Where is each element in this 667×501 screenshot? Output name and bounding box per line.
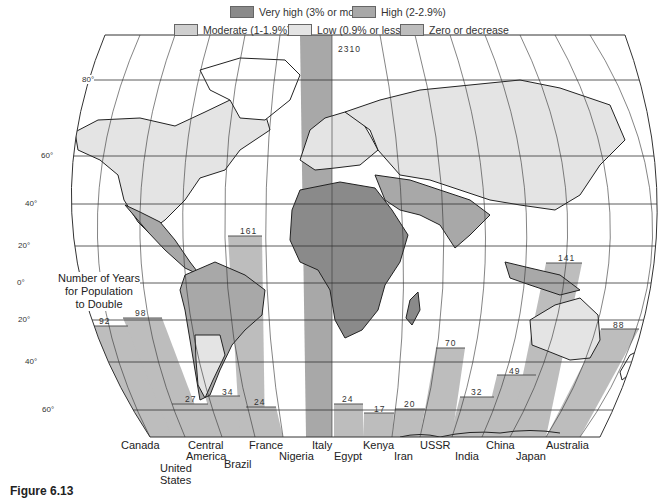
- bar-value-australia: 88: [613, 320, 624, 330]
- bar-value-egypt: 24: [342, 394, 353, 404]
- legend-swatch: [352, 6, 376, 18]
- bar-value-ussr: 70: [445, 338, 456, 348]
- label-us-line2: States: [160, 474, 191, 486]
- legend-moderate: Moderate (1-1.9%): [174, 24, 291, 36]
- label-canada: Canada: [121, 439, 160, 451]
- annotation-line: Number of Years: [58, 272, 140, 285]
- legend-swatch: [174, 24, 198, 36]
- lat-label: 40°: [25, 199, 37, 208]
- legend-zero: Zero or decrease: [400, 24, 509, 36]
- label-nigeria: Nigeria: [279, 450, 314, 462]
- label-us-line1: United: [160, 462, 192, 474]
- lat-label: 20°: [18, 315, 30, 324]
- world-map: [0, 0, 667, 501]
- label-australia: Australia: [546, 439, 589, 451]
- bar-value-italy: 2310: [338, 44, 361, 54]
- lat-label: 80°: [82, 75, 94, 84]
- legend-label: Low (0.9% or less): [317, 24, 404, 36]
- label-iran: Iran: [394, 450, 413, 462]
- legend-label: Moderate (1-1.9%): [203, 24, 291, 36]
- lat-label: 60°: [42, 405, 54, 414]
- bar-value-france: 161: [240, 226, 257, 236]
- label-egypt: Egypt: [334, 450, 362, 462]
- bar-value-kenya: 17: [374, 404, 385, 414]
- bar-value-china: 49: [509, 366, 520, 376]
- figure-caption: Figure 6.13: [10, 484, 73, 498]
- label-china: China: [486, 439, 515, 451]
- label-india: India: [455, 450, 479, 462]
- bar-value-central-america: 27: [185, 394, 196, 404]
- legend: Very high (3% or more) High (2-2.9%) Mod…: [0, 0, 667, 40]
- legend-low: Low (0.9% or less): [288, 24, 404, 36]
- bar-value-canada: 92: [99, 316, 110, 326]
- lat-label: 0°: [17, 278, 25, 287]
- label-italy: Italy: [312, 439, 332, 451]
- lat-label: 40°: [25, 357, 37, 366]
- lat-label: 60°: [41, 151, 53, 160]
- bar-value-brazil: 34: [222, 387, 233, 397]
- legend-label: High (2-2.9%): [381, 6, 446, 18]
- label-ussr: USSR: [420, 439, 451, 451]
- legend-swatch: [400, 24, 424, 36]
- label-kenya: Kenya: [363, 439, 394, 451]
- label-central-america-line2: America: [186, 450, 226, 462]
- annotation-line: to Double: [58, 298, 140, 311]
- legend-high: High (2-2.9%): [352, 6, 446, 18]
- label-japan: Japan: [516, 450, 546, 462]
- lat-label: 20°: [18, 241, 30, 250]
- legend-very-high: Very high (3% or more): [230, 6, 367, 18]
- legend-swatch: [230, 6, 254, 18]
- bar-value-japan: 141: [558, 253, 575, 263]
- annotation-line: for Population: [58, 285, 140, 298]
- doubling-annotation: Number of Years for Population to Double: [58, 272, 140, 311]
- legend-label: Zero or decrease: [429, 24, 509, 36]
- bar-value-india: 32: [471, 387, 482, 397]
- label-brazil: Brazil: [224, 458, 252, 470]
- legend-label: Very high (3% or more): [259, 6, 367, 18]
- bar-value-us: 98: [135, 308, 146, 318]
- bar-value-nigeria: 24: [254, 397, 265, 407]
- bar-value-iran: 20: [404, 399, 415, 409]
- legend-swatch: [288, 24, 312, 36]
